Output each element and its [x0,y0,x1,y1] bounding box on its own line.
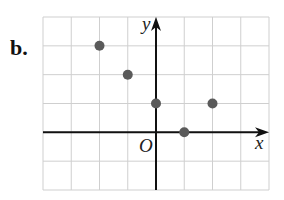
scatter-plot: x y O [0,0,284,200]
x-axis-label: x [254,132,264,153]
data-point [95,41,105,51]
data-point [208,99,218,109]
data-point [123,70,133,80]
y-axis-label: y [140,13,151,34]
origin-label: O [139,135,153,156]
data-point [151,99,161,109]
data-point [179,127,189,137]
